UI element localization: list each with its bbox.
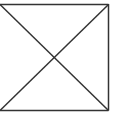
image-placeholder-icon [0,0,113,117]
placeholder-figure [0,0,113,117]
